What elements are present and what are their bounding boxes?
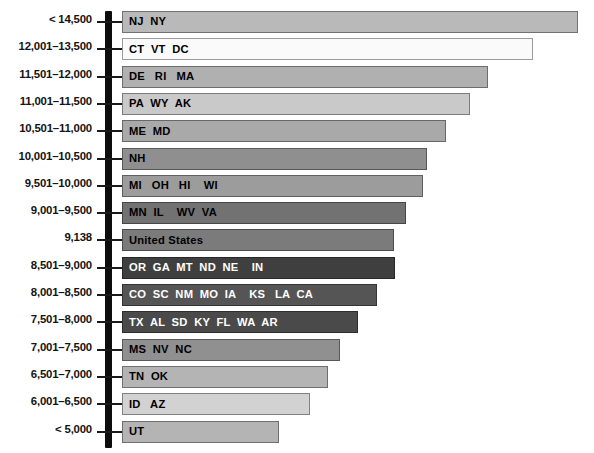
chart-row: 7,001–7,500MS NV NC [0, 339, 594, 366]
bar: CT VT DC [122, 38, 533, 60]
axis-tick [97, 239, 122, 241]
chart-row: 10,001–10,500NH [0, 148, 594, 175]
category-label: 9,138 [64, 231, 92, 243]
chart-row: < 5,000UT [0, 421, 594, 448]
bar-label: PA WY AK [123, 98, 191, 109]
chart-row: 9,138United States [0, 229, 594, 256]
axis-tick [97, 376, 122, 378]
bar-label: UT [123, 426, 144, 437]
chart-row: 8,501–9,000OR GA MT ND NE IN [0, 257, 594, 284]
category-label: 8,001–8,500 [31, 286, 92, 298]
category-label: 11,001–11,500 [20, 95, 92, 107]
category-label: 10,001–10,500 [19, 150, 92, 162]
axis-tick [97, 212, 122, 214]
chart-row: 6,501–7,000TN OK [0, 366, 594, 393]
bar: ID AZ [122, 393, 310, 415]
axis-tick [97, 21, 122, 23]
bar-label: United States [123, 235, 203, 246]
bar-label: MI OH HI WI [123, 180, 218, 191]
category-label: 11,501–12,000 [19, 68, 92, 80]
bar-label: DE RI MA [123, 71, 194, 82]
bar-label: NH [123, 153, 146, 164]
category-label: 6,501–7,000 [31, 368, 92, 380]
category-label: 12,001–13,500 [19, 40, 92, 52]
bar: MI OH HI WI [122, 175, 423, 197]
chart-row: 11,001–11,500PA WY AK [0, 93, 594, 120]
chart-row: < 14,500NJ NY [0, 11, 594, 38]
category-label: 8,501–9,000 [31, 259, 92, 271]
bar-label: TX AL SD KY FL WA AR [123, 317, 278, 328]
category-label: < 14,500 [49, 13, 92, 25]
bar: OR GA MT ND NE IN [122, 257, 395, 279]
bar: UT [122, 421, 279, 443]
axis-tick [97, 321, 122, 323]
axis-tick [97, 76, 122, 78]
axis-tick [97, 158, 122, 160]
bar: United States [122, 229, 394, 251]
bar-label: OR GA MT ND NE IN [123, 262, 263, 273]
bar-label: ME MD [123, 126, 171, 137]
bar: TN OK [122, 366, 328, 388]
axis-tick [97, 130, 122, 132]
bar: DE RI MA [122, 66, 488, 88]
bar-label: ID AZ [123, 399, 165, 410]
axis-tick [97, 403, 122, 405]
chart-row: 8,001–8,500CO SC NM MO IA KS LA CA [0, 284, 594, 311]
chart-row: 6,001–6,500ID AZ [0, 393, 594, 420]
bar: MN IL WV VA [122, 202, 406, 224]
bar: NH [122, 148, 427, 170]
bar-label: CT VT DC [123, 44, 189, 55]
horizontal-bar-chart: < 14,500NJ NY12,001–13,500CT VT DC11,501… [0, 0, 594, 453]
chart-row: 10,501–11,000ME MD [0, 120, 594, 147]
bar: NJ NY [122, 11, 578, 33]
chart-row: 11,501–12,000DE RI MA [0, 66, 594, 93]
bar-label: TN OK [123, 371, 168, 382]
category-label: 9,501–10,000 [25, 177, 92, 189]
category-label: 6,001–6,500 [31, 395, 92, 407]
bar: PA WY AK [122, 93, 470, 115]
category-label: 7,001–7,500 [31, 341, 92, 353]
chart-row: 7,501–8,000TX AL SD KY FL WA AR [0, 311, 594, 338]
category-label: < 5,000 [55, 423, 92, 435]
axis-tick [97, 103, 122, 105]
bar-label: CO SC NM MO IA KS LA CA [123, 289, 313, 300]
axis-tick [97, 267, 122, 269]
bar: MS NV NC [122, 339, 340, 361]
axis-tick [97, 431, 122, 433]
chart-row: 9,501–10,000MI OH HI WI [0, 175, 594, 202]
axis-tick [97, 185, 122, 187]
chart-row: 12,001–13,500CT VT DC [0, 38, 594, 65]
axis-tick [97, 349, 122, 351]
bar: TX AL SD KY FL WA AR [122, 311, 358, 333]
bar: CO SC NM MO IA KS LA CA [122, 284, 377, 306]
category-label: 10,501–11,000 [19, 122, 92, 134]
bar-label: MS NV NC [123, 344, 192, 355]
bar: ME MD [122, 120, 446, 142]
chart-row: 9,001–9,500MN IL WV VA [0, 202, 594, 229]
category-label: 7,501–8,000 [31, 313, 92, 325]
axis-tick [97, 48, 122, 50]
category-label: 9,001–9,500 [31, 204, 92, 216]
bar-label: MN IL WV VA [123, 207, 217, 218]
axis-tick [97, 294, 122, 296]
bar-label: NJ NY [123, 16, 166, 27]
